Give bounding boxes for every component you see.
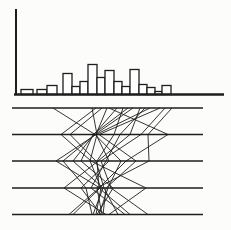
chart-canvas (0, 0, 231, 230)
histogram-bar (114, 82, 122, 95)
histogram-bar (105, 71, 114, 95)
statistical-figure (0, 0, 231, 230)
histogram-bar (130, 70, 139, 95)
histogram-bar (88, 65, 97, 95)
histogram-bar (162, 86, 171, 95)
histogram-bar (97, 78, 105, 95)
histogram-bar (139, 85, 147, 95)
figure-background (0, 0, 231, 230)
histogram-bar (47, 86, 57, 95)
histogram-bar (80, 82, 88, 95)
histogram-bar (63, 74, 72, 95)
